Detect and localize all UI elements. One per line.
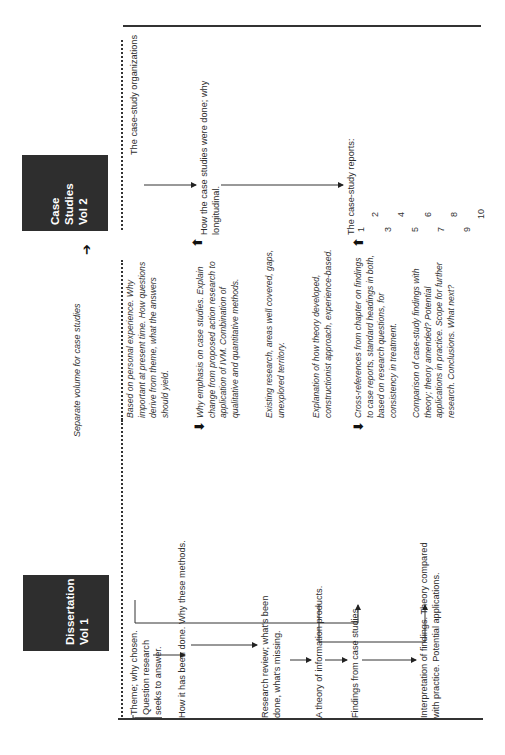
loops-final	[0, 0, 505, 755]
loop-theme-to-findings-final	[135, 600, 358, 623]
diagram-page: Dissertation Vol 1 Case Studies Vol 2 Se…	[0, 0, 505, 755]
